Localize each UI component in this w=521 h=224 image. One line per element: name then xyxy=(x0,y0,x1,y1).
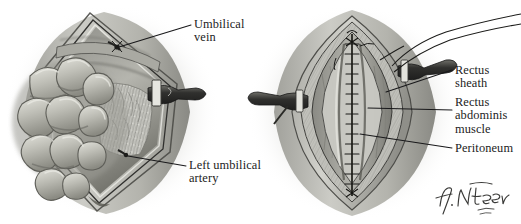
label-umbilical-vein: Umbilical vein xyxy=(194,18,244,45)
label-left-umbilical-artery: Left umbilical artery xyxy=(189,159,261,186)
left-panel-artwork xyxy=(4,4,220,220)
label-rectus-sheath: Rectus sheath xyxy=(455,64,521,90)
cord-tie-band-left xyxy=(296,90,303,112)
cord-clamp xyxy=(152,80,161,106)
illustration-canvas xyxy=(0,0,521,224)
label-rectus-abdominis-muscle: Rectus abdominis muscle xyxy=(455,96,508,136)
label-peritoneum: Peritoneum xyxy=(455,142,513,155)
artist-signature xyxy=(436,183,509,215)
netter-illustration-figure: Umbilical vein Left umbilical artery Rec… xyxy=(0,0,521,224)
